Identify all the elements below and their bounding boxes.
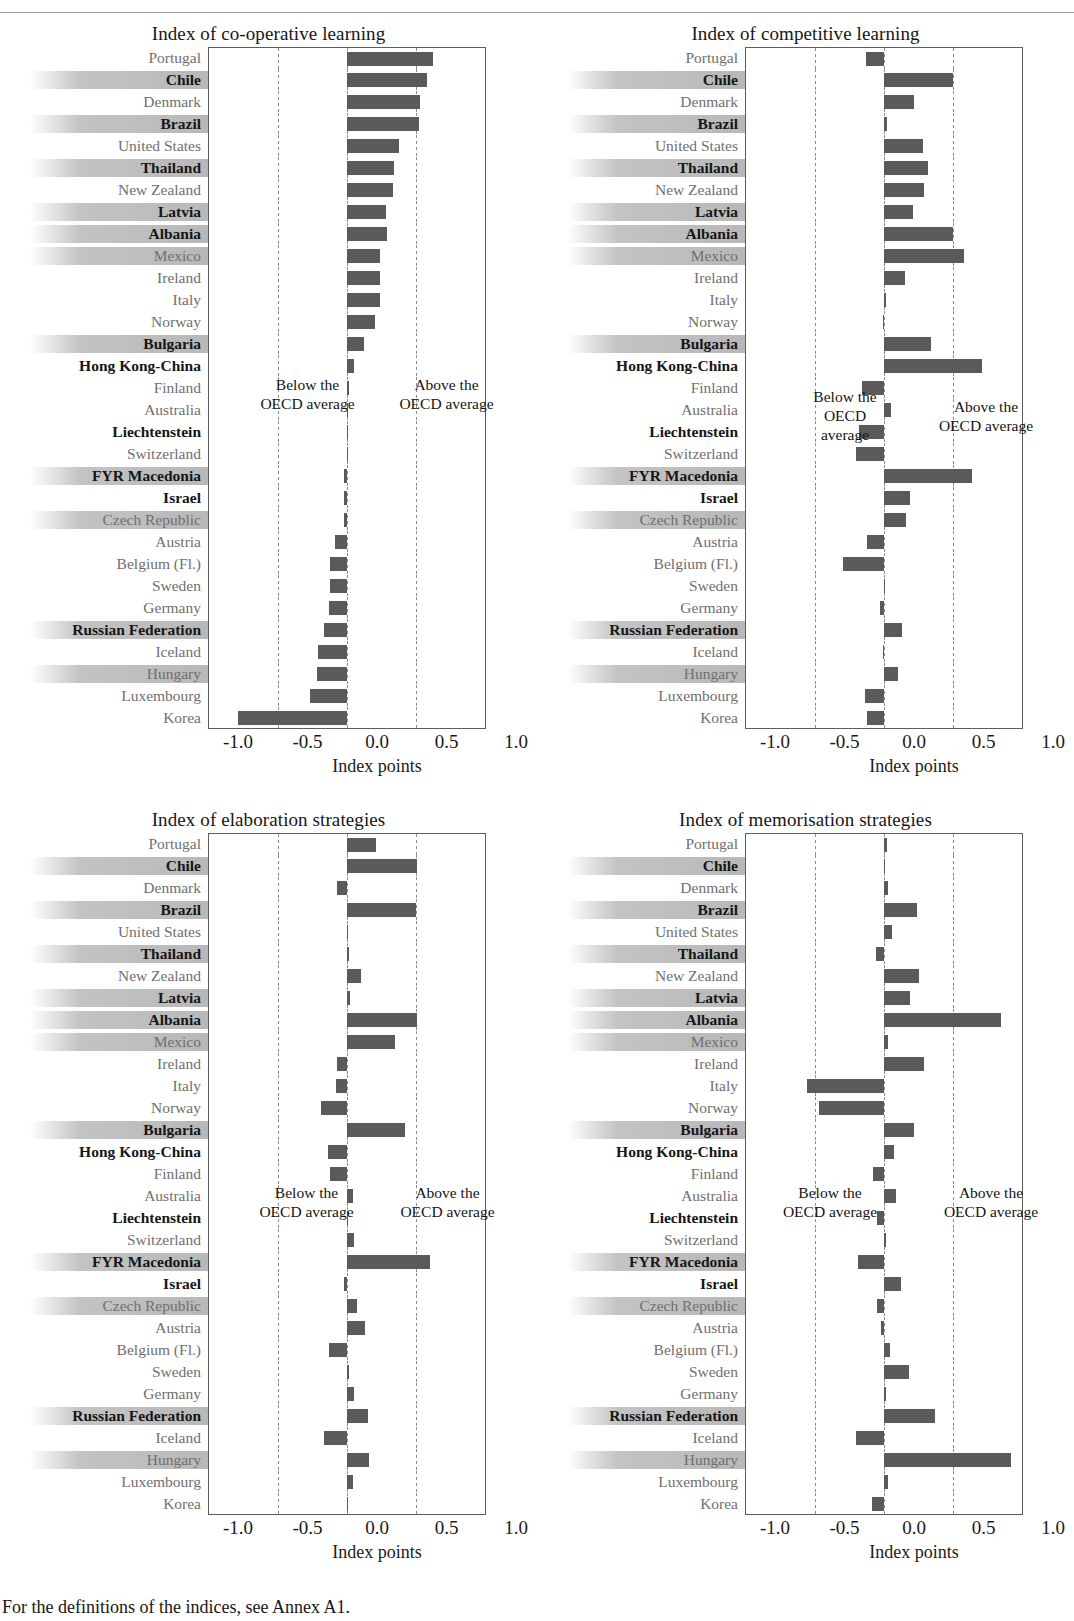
country-label: Iceland <box>567 641 745 663</box>
chart-row: Brazil <box>30 899 508 921</box>
bar <box>867 535 884 549</box>
country-label: United States <box>30 135 208 157</box>
plot-cell <box>208 135 486 157</box>
plot-cell <box>208 1449 486 1471</box>
bar <box>884 623 902 637</box>
bar <box>347 925 348 939</box>
country-label: Bulgaria <box>30 1119 208 1141</box>
gridline-neg <box>278 663 279 685</box>
gridline-pos <box>416 1031 417 1053</box>
gridline-neg <box>278 267 279 289</box>
gridline-pos <box>416 135 417 157</box>
gridline-neg <box>278 1427 279 1449</box>
chart-row: Australia <box>567 1185 1045 1207</box>
gridline-neg <box>278 1229 279 1251</box>
bar <box>347 1299 357 1313</box>
country-label: Switzerland <box>567 1229 745 1251</box>
gridline-neg <box>815 531 816 553</box>
plot-cell <box>208 47 486 69</box>
bar <box>347 1453 369 1467</box>
country-label: Czech Republic <box>30 509 208 531</box>
bar <box>884 1035 888 1049</box>
plot-cell <box>745 1493 1023 1515</box>
plot-cell <box>208 465 486 487</box>
country-label: Denmark <box>567 877 745 899</box>
chart-row: Russian Federation <box>30 619 508 641</box>
chart-row: United States <box>567 921 1045 943</box>
bar <box>856 447 884 461</box>
plot-cell <box>208 157 486 179</box>
gridline-pos <box>953 965 954 987</box>
chart-row: New Zealand <box>30 965 508 987</box>
gridline-pos <box>953 575 954 597</box>
plot-cell <box>208 1427 486 1449</box>
bar <box>867 711 884 725</box>
gridline-pos <box>953 987 954 1009</box>
plot-cell <box>208 597 486 619</box>
bar <box>819 1101 884 1115</box>
gridline-pos <box>416 987 417 1009</box>
gridline-neg <box>278 289 279 311</box>
country-label: Albania <box>30 1009 208 1031</box>
plot-cell <box>745 421 1023 443</box>
chart-row: Sweden <box>30 575 508 597</box>
bar <box>347 1475 353 1489</box>
panel-elaboration-strategies: Index of elaboration strategies Portugal… <box>0 800 537 1586</box>
chart-row: Mexico <box>567 1031 1045 1053</box>
chart-row: United States <box>567 135 1045 157</box>
country-label: Finland <box>30 1163 208 1185</box>
x-axis-label: Index points <box>238 755 516 777</box>
gridline-neg <box>815 91 816 113</box>
chart-row: Sweden <box>30 1361 508 1383</box>
gridline-pos <box>416 1317 417 1339</box>
gridline-pos <box>416 399 417 421</box>
country-label: Luxembourg <box>30 685 208 707</box>
gridline-neg <box>815 289 816 311</box>
country-label: Liechtenstein <box>567 1207 745 1229</box>
gridline-neg <box>815 267 816 289</box>
bar <box>876 947 884 961</box>
gridline-neg <box>815 965 816 987</box>
gridline-neg <box>278 1383 279 1405</box>
gridline-pos <box>953 1185 954 1207</box>
bar <box>310 689 347 703</box>
country-label: Australia <box>567 399 745 421</box>
gridline-neg <box>815 355 816 377</box>
gridline-neg <box>278 509 279 531</box>
country-label: Bulgaria <box>567 1119 745 1141</box>
plot-cell <box>208 553 486 575</box>
chart-row: Korea <box>567 1493 1045 1515</box>
plot-cell <box>745 267 1023 289</box>
bar <box>884 95 914 109</box>
country-label: Italy <box>30 1075 208 1097</box>
gridline-neg <box>815 1009 816 1031</box>
plot-cell <box>208 1339 486 1361</box>
bar <box>347 271 380 285</box>
country-label: Mexico <box>30 1031 208 1053</box>
axis-tick: 0.5 <box>435 1515 459 1541</box>
plot-cell <box>745 641 1023 663</box>
gridline-pos <box>953 1361 954 1383</box>
bar <box>877 1211 884 1225</box>
bar <box>347 1233 354 1247</box>
gridline-neg <box>278 1075 279 1097</box>
bar <box>884 991 910 1005</box>
gridline-pos <box>416 289 417 311</box>
chart-row: Korea <box>30 1493 508 1515</box>
bar <box>347 425 348 439</box>
chart-area: PortugalChileDenmarkBrazilUnited StatesT… <box>30 47 508 777</box>
chart-row: Ireland <box>30 1053 508 1075</box>
country-label: Hungary <box>567 1449 745 1471</box>
gridline-neg <box>815 597 816 619</box>
gridline-pos <box>416 1053 417 1075</box>
country-label: Portugal <box>30 833 208 855</box>
plot-cell <box>208 1075 486 1097</box>
chart-row: New Zealand <box>567 965 1045 987</box>
bar <box>347 1189 353 1203</box>
gridline-neg <box>815 1119 816 1141</box>
plot-cell <box>745 1449 1023 1471</box>
bar <box>324 623 347 637</box>
plot-cell <box>208 1097 486 1119</box>
gridline-neg <box>815 1207 816 1229</box>
axis-tick: -0.5 <box>292 1515 322 1541</box>
